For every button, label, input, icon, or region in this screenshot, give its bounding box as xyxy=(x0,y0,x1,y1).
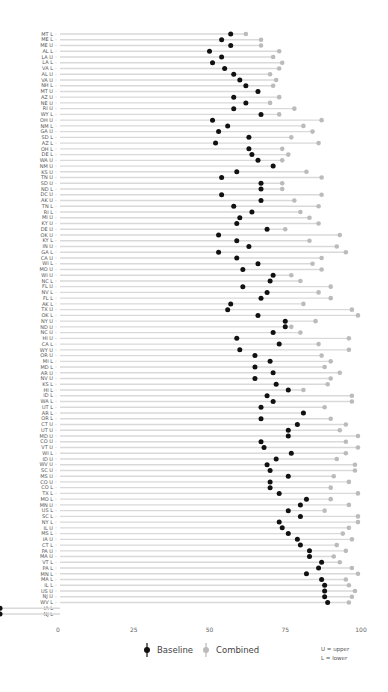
baseline-point xyxy=(213,141,218,146)
combined-point xyxy=(286,152,291,157)
baseline-point xyxy=(268,278,273,283)
legend-combined-label: Combined xyxy=(216,645,259,655)
combined-point xyxy=(277,49,282,54)
chart-row: FL L xyxy=(43,295,333,301)
combined-point xyxy=(347,600,352,605)
combined-point xyxy=(353,462,358,467)
combined-point xyxy=(328,376,333,381)
chart-row: OK L xyxy=(41,312,360,318)
baseline-point xyxy=(240,267,245,272)
combined-point xyxy=(347,336,352,341)
baseline-point xyxy=(228,32,233,37)
combined-point xyxy=(298,330,303,335)
chart-row: RI U xyxy=(43,105,297,111)
baseline-point xyxy=(298,514,303,519)
baseline-point xyxy=(271,399,276,404)
chart-row: WA L xyxy=(41,398,355,404)
chart-row: MD L xyxy=(40,364,326,370)
baseline-point xyxy=(259,439,264,444)
baseline-point xyxy=(228,43,233,48)
combined-point xyxy=(319,267,324,272)
baseline-point xyxy=(268,485,273,490)
baseline-point xyxy=(304,571,309,576)
baseline-point xyxy=(222,66,227,71)
chart-row: KY U xyxy=(42,220,321,226)
baseline-point xyxy=(249,152,254,157)
chart-row: AL U xyxy=(42,71,273,77)
combined-point xyxy=(328,416,333,421)
combined-point xyxy=(319,256,324,261)
combined-point xyxy=(280,60,285,65)
chart-row: WI L xyxy=(42,450,348,456)
combined-point xyxy=(337,428,342,433)
chart-row: MA U xyxy=(40,553,336,559)
baseline-point xyxy=(319,560,324,565)
x-tick-label: 25 xyxy=(130,626,138,633)
chart-row: OK U xyxy=(41,232,343,238)
combined-point xyxy=(301,388,306,393)
chart-row: MD U xyxy=(40,433,361,439)
chart-row: US U xyxy=(41,588,357,594)
legend: Baseline Combined xyxy=(144,643,259,657)
chart-row: CT L xyxy=(42,542,339,548)
baseline-point xyxy=(237,347,242,352)
chart-row: TX U xyxy=(40,306,354,312)
baseline-point xyxy=(231,95,236,100)
combined-point xyxy=(268,101,273,106)
combined-point xyxy=(283,227,288,232)
baseline-point xyxy=(240,284,245,289)
combined-point xyxy=(350,307,355,312)
combined-point xyxy=(350,594,355,599)
combined-point xyxy=(280,181,285,186)
combined-point xyxy=(353,468,358,473)
combined-point xyxy=(322,405,327,410)
baseline-point xyxy=(277,520,282,525)
chart-row: IA U xyxy=(43,536,354,542)
chart-row: DE L xyxy=(42,151,291,157)
combined-point xyxy=(356,313,361,318)
baseline-point xyxy=(304,497,309,502)
baseline-point xyxy=(259,181,264,186)
combined-point xyxy=(334,457,339,462)
combined-point xyxy=(356,572,361,577)
baseline-point xyxy=(225,123,230,128)
legend-baseline-label: Baseline xyxy=(157,645,193,655)
combined-point xyxy=(307,215,312,220)
baseline-point xyxy=(322,589,327,594)
combined-point xyxy=(268,72,273,77)
chart-row: OR L xyxy=(41,415,333,421)
combined-point xyxy=(259,43,264,48)
chart-row: AR L xyxy=(42,410,306,416)
chart-row: VT U xyxy=(41,444,360,450)
dumbbell-chart: MT LME LME UAL LLA ULA LVA LAL UVA UNH L… xyxy=(0,0,388,692)
combined-point xyxy=(310,129,315,134)
baseline-point xyxy=(225,307,230,312)
baseline-point xyxy=(243,83,248,88)
baseline-point xyxy=(286,474,291,479)
chart-row: TX L xyxy=(41,490,360,496)
baseline-point xyxy=(246,146,251,151)
combined-point xyxy=(319,353,324,358)
x-axis: 0255075100 xyxy=(56,626,367,633)
combined-point xyxy=(344,250,349,255)
combined-point xyxy=(328,359,333,364)
combined-point xyxy=(316,141,321,146)
combined-point xyxy=(347,503,352,508)
baseline-point xyxy=(259,198,264,203)
combined-point xyxy=(298,210,303,215)
chart-row: VA U xyxy=(41,77,278,83)
baseline-point xyxy=(249,210,254,215)
baseline-point xyxy=(259,416,264,421)
combined-point xyxy=(271,83,276,88)
chart-row: AZ U xyxy=(41,94,282,100)
combined-point xyxy=(328,284,333,289)
baseline-point xyxy=(255,261,260,266)
chart-row: ID U xyxy=(42,456,339,462)
chart-row: WV L xyxy=(40,599,351,605)
chart-row: WA U xyxy=(40,157,285,163)
combined-point xyxy=(322,508,327,513)
combined-point xyxy=(344,549,349,554)
chart-row: IL L xyxy=(44,582,351,588)
combined-point xyxy=(337,371,342,376)
baseline-point xyxy=(286,428,291,433)
